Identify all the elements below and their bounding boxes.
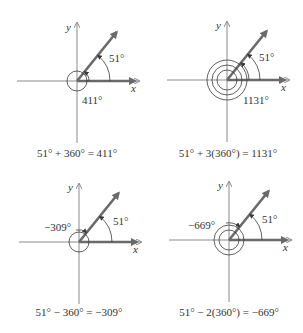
- x-axis-label: x: [282, 241, 288, 253]
- reference-angle-arc: [250, 214, 262, 240]
- reference-angle-label: 51°: [113, 215, 128, 227]
- equation-caption: 51° + 3(360°) = 1131°: [179, 147, 278, 160]
- x-axis-label: x: [130, 82, 136, 94]
- coterminal-angles-figure: 51° 411° x y 51° + 360° = 411° 51° 1131°…: [0, 0, 303, 333]
- reference-angle-label: 51°: [262, 213, 277, 225]
- x-axis-label: x: [280, 81, 286, 93]
- reference-angle-arc: [100, 216, 112, 242]
- coterminal-angle-label: −309°: [44, 221, 71, 233]
- equation-caption: 51° − 2(360°) = −669°: [179, 306, 279, 319]
- panel-neg309: 51° −309° x y 51° − 360° = −309°: [19, 181, 141, 318]
- equation-caption: 51° + 360° = 411°: [37, 147, 117, 159]
- y-axis-label: y: [65, 21, 71, 33]
- coterminal-angle-label: 1131°: [243, 94, 269, 106]
- panel-411: 51° 411° x y 51° + 360° = 411°: [17, 21, 139, 159]
- x-axis-label: x: [132, 243, 138, 255]
- y-axis-label: y: [215, 19, 221, 31]
- panel-neg669: 51° −669° x y 51° − 2(360°) = −669°: [169, 179, 291, 319]
- equation-caption: 51° − 360° = −309°: [36, 306, 123, 318]
- coterminal-angle-label: −669°: [188, 219, 215, 231]
- y-axis-label: y: [217, 179, 223, 191]
- panel-1131: 51° 1131° x y 51° + 3(360°) = 1131°: [167, 19, 289, 160]
- coterminal-angle-label: 411°: [82, 94, 103, 106]
- reference-angle-label: 51°: [259, 51, 274, 63]
- y-axis-label: y: [67, 181, 73, 193]
- reference-angle-label: 51°: [109, 52, 124, 64]
